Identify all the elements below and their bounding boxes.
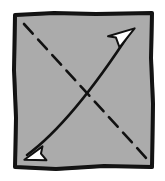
figure-root — [0, 0, 165, 181]
diagram-canvas — [0, 0, 165, 181]
